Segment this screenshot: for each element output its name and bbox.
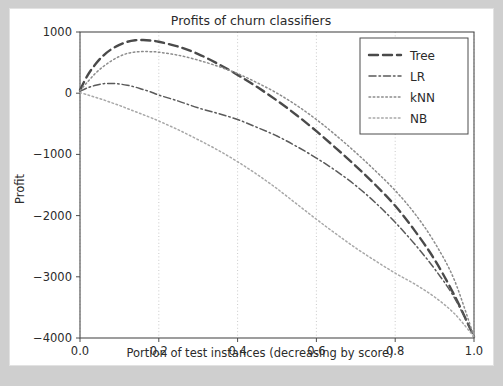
y-tick-label: −4000: [33, 331, 72, 345]
x-tick-label: 1.0: [465, 344, 483, 358]
chart-legend[interactable]: TreeLRkNNNB: [360, 38, 468, 134]
legend-label-nb: NB: [410, 112, 427, 126]
chart-title: Profits of churn classifiers: [171, 13, 331, 28]
x-tick-label: 0.0: [71, 344, 89, 358]
legend-label-knn: kNN: [410, 91, 435, 105]
x-axis-label: Portion of test instances (decreasing by…: [126, 346, 393, 360]
y-axis-label: Profit: [13, 174, 27, 204]
y-tick-label: −1000: [33, 147, 72, 161]
legend-label-tree: Tree: [409, 49, 435, 63]
figure-canvas: 0.00.20.40.60.81.0 10000−1000−2000−3000−…: [9, 8, 494, 366]
y-tick-label: 0: [65, 86, 72, 100]
y-tick-label: −3000: [33, 270, 72, 284]
legend-label-lr: LR: [410, 70, 425, 84]
profit-line-chart: 0.00.20.40.60.81.0 10000−1000−2000−3000−…: [10, 9, 493, 365]
y-tick-label: −2000: [33, 209, 72, 223]
y-tick-label: 1000: [43, 25, 72, 39]
